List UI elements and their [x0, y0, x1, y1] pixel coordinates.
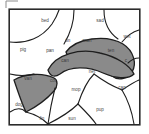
region-label-wet: wet [123, 34, 131, 39]
region-label-pig: pig [20, 47, 27, 52]
region-label-sun: sun [68, 116, 76, 121]
region-label-dog: dog [15, 102, 23, 107]
region-label-net: net [89, 69, 96, 74]
region-label-tin: tin [66, 38, 71, 43]
region-label-ten: ten [108, 48, 115, 53]
region-label-man: man [83, 38, 92, 43]
word-region-diagram-figure: bedsadwetpigtinmanpantencancvancotnetmop… [0, 0, 149, 134]
diagram-canvas: bedsadwetpigtinmanpantencancvancotnetmop… [8, 8, 141, 126]
region-label-bed: bed [41, 18, 49, 23]
region-label-fin: fin [40, 116, 45, 121]
region-label-can: can [61, 58, 69, 63]
region-label-cot: cot [50, 78, 57, 83]
region-label-van: van [24, 76, 32, 81]
region-label-sad: sad [96, 18, 104, 23]
region-label-pup: pup [96, 107, 104, 112]
region-label-mop: mop [72, 87, 81, 92]
region-label-cap: cap [118, 85, 126, 90]
region-label-pan: pan [46, 48, 54, 53]
